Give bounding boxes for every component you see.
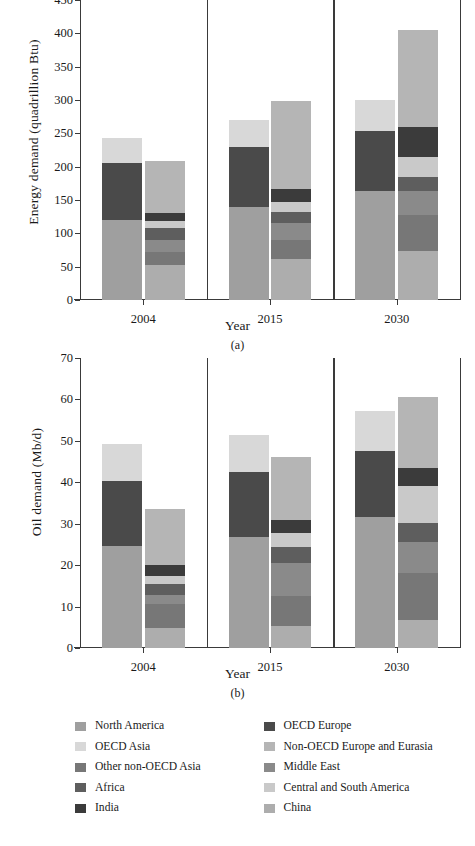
bar-segment [271,457,311,519]
legend-swatch-icon [75,783,86,792]
bar-segment [102,220,142,300]
legend-item: OECD Asia [75,737,236,758]
y-tick-mark [75,648,80,649]
group-divider [460,0,461,300]
y-tick-label: 50 [39,260,73,273]
y-tick-mark [75,67,80,68]
y-tick-label: 70 [39,352,73,365]
bar-segment [145,265,185,300]
legend-swatch-icon [75,722,86,731]
group-divider [333,358,334,648]
x-tick-mark [397,300,398,305]
bar-segment [271,202,311,212]
figure-legend: North AmericaOECD AsiaOther non-OECD Asi… [0,716,475,819]
bar-segment [145,161,185,213]
y-tick-mark [75,0,80,1]
legend-swatch-icon [75,742,86,751]
stacked-bar [229,435,269,648]
x-tick-mark [143,300,144,305]
x-tick-mark [270,300,271,305]
y-tick-mark [75,565,80,566]
bar-segment [271,189,311,202]
bar-segment [229,537,269,648]
bar-segment [271,563,311,596]
legend-column-left: North AmericaOECD AsiaOther non-OECD Asi… [0,716,236,819]
y-tick-label: 10 [39,600,73,613]
stacked-bar [229,120,269,300]
legend-item: North America [75,716,236,737]
group-divider [207,358,208,648]
bar-segment [145,509,185,565]
legend-item: India [75,798,236,819]
bar-segment [145,221,185,228]
bar-segment [102,163,142,220]
stacked-bar [271,101,311,300]
group-divider [207,0,208,300]
bar-segment [398,486,438,524]
legend-item: OECD Europe [264,716,475,737]
bar-segment [271,596,311,626]
y-tick-mark [75,607,80,608]
y-tick-label: 0 [39,642,73,655]
y-tick-mark [75,100,80,101]
bar-segment [229,120,269,147]
y-tick-mark [75,200,80,201]
y-tick-mark [75,399,80,400]
bar-segment [229,472,269,537]
bar-segment [102,138,142,163]
bar-segment [229,435,269,472]
bar-segment [398,127,438,157]
y-tick-label: 30 [39,517,73,530]
legend-label: Other non-OECD Asia [95,761,201,773]
legend-label: Africa [95,782,125,794]
bar-segment [355,517,395,648]
bar-segment [271,240,311,259]
bar-segment [355,131,395,192]
plot-area-b: 010203040506070200420152030 [80,358,460,648]
bar-segment [145,576,185,584]
bar-segment [145,240,185,252]
y-tick-label: 350 [39,60,73,73]
y-tick-mark [75,441,80,442]
bar-segment [145,228,185,240]
bar-segment [271,520,311,533]
bar-segment [355,191,395,300]
plot-area-a: 050100150200250300350400450200420152030 [80,0,460,300]
bar-segment [229,207,269,300]
legend-label: Middle East [284,761,340,773]
y-tick-label: 40 [39,476,73,489]
bar-segment [398,251,438,300]
legend-item: Middle East [264,757,475,778]
bar-segment [145,604,185,628]
legend-item: Central and South America [264,778,475,799]
bar-segment [398,397,438,468]
stacked-bar [145,161,185,300]
legend-label: Non-OECD Europe and Eurasia [284,741,433,753]
legend-label: OECD Asia [95,741,150,753]
figure-panel-b: Oil demand (Mb/d) 0102030405060702004201… [0,358,475,698]
bar-segment [271,547,311,563]
bar-segment [145,595,185,605]
bar-segment [398,468,438,486]
bar-segment [145,252,185,265]
stacked-bar [102,138,142,300]
bar-segment [398,177,438,192]
y-tick-label: 450 [39,0,73,6]
x-axis-label-a: Year [0,318,475,334]
y-tick-mark [75,33,80,34]
bar-segment [102,481,142,546]
bar-segment [355,100,395,131]
bar-segment [355,451,395,517]
legend-column-right: OECD EuropeNon-OECD Europe and EurasiaMi… [240,716,475,819]
bar-segment [398,573,438,620]
y-tick-mark [75,482,80,483]
bar-segment [145,213,185,221]
legend-label: North America [95,720,164,732]
panel-letter-b: (b) [0,686,475,701]
y-tick-label: 300 [39,94,73,107]
bar-segment [398,523,438,542]
bar-segment [398,157,438,177]
y-tick-label: 100 [39,227,73,240]
legend-swatch-icon [264,742,275,751]
y-tick-mark [75,167,80,168]
